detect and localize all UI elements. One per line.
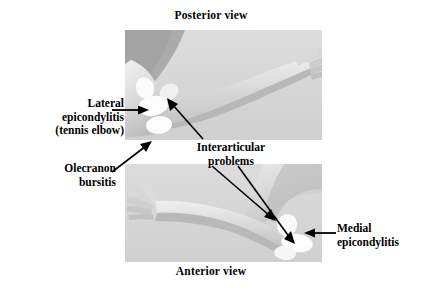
- label-lateral-epicondylitis: Lateral epicondylitis (tennis elbow): [8, 97, 124, 138]
- label-interarticular-problems: Interarticular problems: [168, 141, 294, 168]
- label-olecranon-line-2: bursitis: [8, 176, 116, 190]
- label-olecranon-line-1: Olecranon: [8, 162, 116, 176]
- posterior-arm-photo: [125, 30, 322, 145]
- label-interarticular-line-1: Interarticular: [168, 141, 294, 155]
- label-medial-line-2: epicondylitis: [337, 236, 422, 250]
- label-medial-epicondylitis: Medial epicondylitis: [337, 222, 422, 249]
- caption-anterior-view: Anterior view: [0, 265, 422, 277]
- anterior-arm-photo: [125, 163, 322, 262]
- panel-anterior-view: [125, 163, 322, 262]
- label-lateral-line-3: (tennis elbow): [8, 124, 124, 138]
- label-interarticular-line-2: problems: [168, 155, 294, 169]
- label-olecranon-bursitis: Olecranon bursitis: [8, 162, 116, 189]
- elbow-disorders-figure: Posterior view: [0, 0, 422, 291]
- label-lateral-line-2: epicondylitis: [8, 111, 124, 125]
- label-lateral-line-1: Lateral: [8, 97, 124, 111]
- panel-posterior-view: [125, 30, 322, 145]
- caption-posterior-view: Posterior view: [0, 9, 422, 21]
- label-medial-line-1: Medial: [337, 222, 422, 236]
